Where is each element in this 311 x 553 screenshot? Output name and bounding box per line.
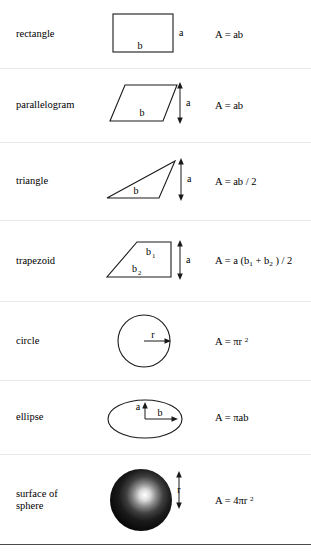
parallelogram-label-b: b [140, 107, 145, 118]
ellipse-label-a: a [136, 401, 141, 412]
bottom-divider-rule [0, 544, 311, 545]
shape-name-trapezoid: trapezoid [0, 255, 97, 267]
figure-parallelogram: a b [97, 78, 205, 134]
table-row-rectangle: rectangle a b A = ab [0, 0, 311, 68]
shape-name-surface-of-sphere-line1: surface of [16, 488, 97, 500]
trapezoid-label-b2: b [132, 263, 137, 274]
formula-ellipse-part2: ab [239, 412, 249, 423]
shape-name-circle: circle [0, 335, 97, 347]
table-row-circle: circle r A = πr 2 [0, 301, 311, 380]
formula-ellipse: A = πab [205, 412, 311, 423]
trapezoid-arrowhead-down [177, 274, 183, 281]
rectangle-outline [113, 14, 173, 52]
shape-name-surface-of-sphere-line2: sphere [16, 500, 97, 512]
figure-rectangle: a b [97, 8, 205, 60]
triangle-arrowhead-down [178, 194, 184, 201]
formula-trapezoid-part3: ) / 2 [273, 255, 293, 266]
sphere-diagram: r [99, 460, 203, 540]
shape-name-surface-of-sphere: surface of sphere [0, 488, 97, 512]
geometry-area-formula-table: rectangle a b A = ab parallelogram a b [0, 0, 311, 553]
parallelogram-diagram: a b [99, 78, 203, 134]
circle-label-r: r [151, 329, 155, 340]
ellipse-arrowhead-right [172, 416, 179, 422]
formula-rectangle: A = ab [205, 29, 311, 40]
formula-triangle-lhs: A = [215, 176, 233, 187]
formula-trapezoid: A = a (b1 + b2 ) / 2 [205, 255, 311, 268]
ellipse-diagram: a b [99, 390, 203, 446]
triangle-arrowhead-up [178, 158, 184, 165]
formula-triangle-rhs: ab / 2 [233, 176, 256, 187]
formula-rectangle-lhs: A = [215, 29, 233, 40]
circle-diagram: r [99, 310, 203, 372]
parallelogram-label-a: a [186, 97, 191, 108]
trapezoid-label-b1: b [146, 246, 151, 257]
table-row-surface-of-sphere: surface of sphere [0, 454, 311, 545]
figure-ellipse: a b [97, 390, 205, 446]
trapezoid-arrowhead-up [177, 240, 183, 247]
sphere-label-r: r [177, 484, 181, 495]
ellipse-label-b: b [158, 407, 163, 418]
formula-ellipse-part1: A = [215, 412, 233, 423]
formula-sphere-part1: A = 4 [215, 495, 238, 506]
table-row-trapezoid: trapezoid a b 1 b 2 A = a (b1 + b2 ) / 2 [0, 220, 311, 301]
figure-sphere: r [97, 460, 205, 540]
figure-triangle: a b [97, 153, 205, 211]
rectangle-label-b: b [138, 40, 143, 51]
sphere-arrowhead-up [176, 471, 182, 478]
sphere-body [110, 469, 172, 531]
formula-circle-exponent: 2 [245, 336, 249, 344]
formula-trapezoid-part1: A = a (b [215, 255, 249, 266]
table-row-ellipse: ellipse a b A = πab [0, 380, 311, 454]
ellipse-arrowhead-up [142, 402, 148, 409]
trapezoid-label-b1-subscript: 1 [152, 252, 155, 259]
parallelogram-arrowhead-down [177, 117, 183, 124]
triangle-label-a: a [187, 173, 192, 184]
table-row-triangle: triangle a b A = ab / 2 [0, 142, 311, 220]
shape-name-ellipse: ellipse [0, 411, 97, 423]
formula-parallelogram-lhs: A = [215, 100, 233, 111]
rectangle-diagram: a b [99, 8, 203, 60]
formula-triangle: A = ab / 2 [205, 176, 311, 187]
trapezoid-diagram: a b 1 b 2 [99, 233, 203, 289]
triangle-diagram: a b [99, 153, 203, 211]
formula-circle: A = πr 2 [205, 336, 311, 347]
table-row-parallelogram: parallelogram a b A = ab [0, 68, 311, 142]
formula-trapezoid-part2: + b [253, 255, 269, 266]
shape-name-triangle: triangle [0, 175, 97, 187]
rectangle-label-a: a [179, 27, 184, 38]
triangle-label-b: b [134, 185, 139, 196]
sphere-arrowhead-down [176, 503, 182, 510]
formula-rectangle-rhs: ab [233, 29, 243, 40]
formula-sphere-exponent: 2 [250, 495, 254, 503]
shape-name-rectangle: rectangle [0, 28, 97, 40]
parallelogram-arrowhead-up [177, 82, 183, 89]
formula-sphere: A = 4πr 2 [205, 495, 311, 506]
triangle-outline [107, 161, 175, 198]
formula-parallelogram: A = ab [205, 100, 311, 111]
shape-name-parallelogram: parallelogram [0, 99, 97, 111]
formula-circle-part1: A = [215, 336, 233, 347]
figure-circle: r [97, 310, 205, 372]
trapezoid-label-a: a [186, 254, 191, 265]
formula-parallelogram-rhs: ab [233, 100, 243, 111]
trapezoid-label-b2-subscript: 2 [138, 269, 142, 276]
figure-trapezoid: a b 1 b 2 [97, 233, 205, 289]
